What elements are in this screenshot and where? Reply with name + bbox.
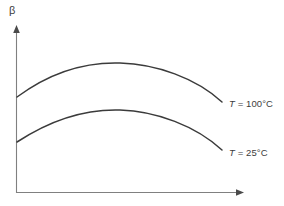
beta-vs-temperature-chart: β T = 100°C T = 25°C (0, 0, 284, 206)
curve-label-hot-value: = 100°C (238, 98, 273, 109)
y-axis-arrowhead (13, 25, 20, 33)
curve-label-hot: T = 100°C (229, 98, 273, 109)
curve-label-cold-value: = 25°C (238, 147, 268, 158)
x-axis-arrowhead (236, 189, 244, 195)
curve-label-cold: T = 25°C (229, 147, 268, 158)
curve-label-hot-variable: T (229, 98, 235, 109)
curve-series-cold (17, 110, 222, 150)
curve-series-hot (17, 63, 222, 102)
curve-label-cold-variable: T (229, 147, 235, 158)
